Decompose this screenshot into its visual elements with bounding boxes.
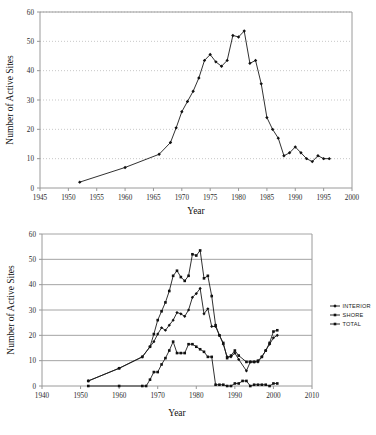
data-point — [328, 157, 331, 160]
data-point — [234, 349, 237, 352]
data-point — [160, 310, 163, 313]
data-point — [210, 295, 213, 298]
data-point — [87, 380, 90, 383]
data-point — [156, 371, 159, 374]
data-point — [172, 275, 175, 278]
data-point — [237, 382, 240, 385]
x-tick-label: 2000 — [266, 392, 281, 400]
y-tick-label: 60 — [27, 9, 35, 17]
x-tick-label: 1985 — [260, 194, 275, 202]
bottom-chart-svg: 0102030405060194019501960197019801990200… — [0, 220, 376, 435]
x-tick-label: 2000 — [345, 194, 360, 202]
series-line-total — [88, 250, 277, 380]
x-tick-label: 1950 — [61, 194, 76, 202]
data-point — [260, 82, 263, 85]
x-tick-label: 1965 — [146, 194, 161, 202]
data-point — [186, 100, 189, 103]
data-point — [272, 330, 275, 333]
data-point — [245, 380, 248, 383]
data-point — [78, 180, 81, 183]
x-tick-label: 1960 — [112, 392, 127, 400]
x-tick-label: 1960 — [118, 194, 133, 202]
data-point — [172, 340, 175, 343]
bottom-chart-figure: 0102030405060194019501960197019801990200… — [0, 220, 376, 435]
data-point — [222, 383, 225, 386]
data-point — [268, 342, 271, 345]
x-tick-label: 1975 — [203, 194, 218, 202]
x-tick-label: 1990 — [288, 194, 303, 202]
top-chart-svg: 0102030405060194519501955196019651970197… — [0, 0, 376, 220]
data-point — [153, 371, 156, 374]
data-point — [118, 367, 121, 370]
y-tick-label: 20 — [27, 126, 35, 134]
y-tick-label: 50 — [27, 38, 35, 46]
data-point — [87, 385, 90, 388]
data-point — [203, 351, 206, 354]
data-point — [241, 380, 244, 383]
legend-item-interior[interactable]: INTERIOR — [330, 303, 371, 309]
data-point — [197, 76, 200, 79]
data-point — [164, 301, 167, 304]
x-tick-label: 1970 — [175, 194, 190, 202]
data-point — [237, 354, 240, 357]
data-point — [180, 110, 183, 113]
legend-marker — [334, 323, 337, 326]
data-point — [141, 385, 144, 388]
legend-marker — [334, 314, 337, 317]
data-point — [226, 357, 229, 360]
data-point — [118, 385, 121, 388]
data-point — [199, 249, 202, 252]
y-tick-label: 10 — [27, 155, 35, 163]
data-point — [268, 385, 271, 388]
x-tick-label: 1980 — [189, 392, 204, 400]
data-point — [180, 352, 183, 355]
x-axis-title: Year — [168, 408, 186, 418]
data-point — [261, 356, 264, 359]
data-point — [210, 356, 213, 359]
data-point — [195, 254, 198, 257]
y-axis-title: Number of Active Sites — [6, 265, 16, 355]
data-point — [230, 385, 233, 388]
x-tick-label: 1940 — [35, 392, 50, 400]
legend-marker — [333, 304, 336, 307]
x-tick-label: 2010 — [305, 392, 320, 400]
top-chart-figure: 0102030405060194519501955196019651970197… — [0, 0, 376, 220]
data-point — [210, 325, 213, 328]
y-tick-label: 30 — [27, 97, 35, 105]
legend-item-shore[interactable]: SHORE — [330, 312, 363, 318]
data-point — [272, 382, 275, 385]
legend-label: TOTAL — [343, 321, 362, 327]
data-point — [191, 343, 194, 346]
data-point — [207, 275, 210, 278]
data-point — [231, 34, 234, 37]
data-point — [168, 349, 171, 352]
legend-label: SHORE — [343, 312, 364, 318]
data-point — [176, 352, 179, 355]
data-point — [176, 269, 179, 272]
x-tick-label: 1955 — [90, 194, 105, 202]
data-point — [234, 382, 237, 385]
data-point — [248, 62, 251, 65]
data-point — [226, 385, 229, 388]
y-tick-label: 40 — [29, 281, 37, 289]
data-point — [218, 334, 221, 337]
legend-item-total[interactable]: TOTAL — [330, 321, 361, 327]
data-point — [145, 385, 148, 388]
data-point — [253, 383, 256, 386]
x-tick-label: 1990 — [228, 392, 243, 400]
data-point — [249, 385, 252, 388]
data-point — [276, 329, 279, 332]
data-point — [153, 333, 156, 336]
y-tick-label: 60 — [29, 231, 37, 239]
y-tick-label: 30 — [29, 307, 37, 315]
data-point — [195, 345, 198, 348]
data-point — [156, 319, 159, 322]
y-axis-title: Number of Active Sites — [5, 55, 15, 145]
legend-label: INTERIOR — [343, 303, 371, 309]
x-tick-label: 1970 — [151, 392, 166, 400]
data-point — [245, 361, 248, 364]
data-point — [123, 166, 126, 169]
data-point — [253, 361, 256, 364]
x-tick-label: 1980 — [231, 194, 246, 202]
y-tick-label: 0 — [32, 383, 36, 391]
